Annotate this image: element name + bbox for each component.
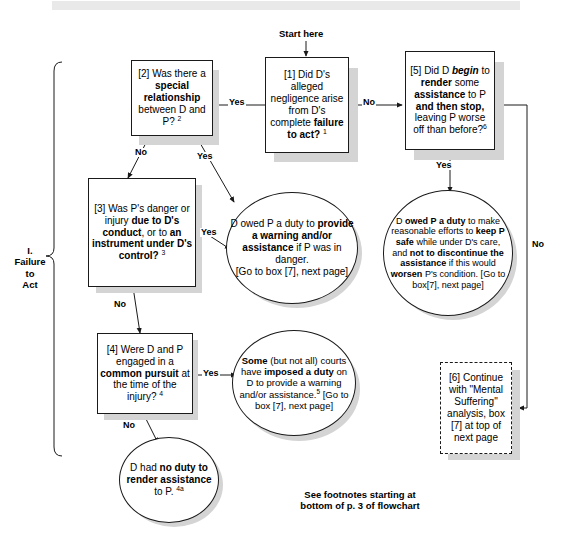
edge-label-box5-no: No	[531, 240, 545, 249]
node-box3-text: [3] Was P's danger or injury due to D's …	[89, 202, 195, 263]
node-box1[interactable]: [1] Did D's alleged negligence arise fro…	[265, 57, 349, 153]
node-box4[interactable]: [4] Were D and P engaged in a common pur…	[97, 333, 193, 414]
edge-label-box3-no: No	[113, 300, 127, 309]
wire-box3-no-box4	[133, 287, 140, 333]
start-here-label: Start here	[279, 28, 323, 39]
edge-label-box4-no: No	[122, 421, 136, 430]
node-oval-no-duty[interactable]: D had no duty to render assistance to P.…	[119, 437, 219, 523]
edge-label-box1-no: No	[362, 98, 376, 107]
node-box2[interactable]: [2] Was there a special relationship bet…	[131, 60, 213, 136]
node-oval-some-courts[interactable]: Some (but not all) courts have imposed a…	[232, 330, 356, 436]
edge-label-box4-yes: Yes	[202, 369, 220, 378]
node-oval-warning[interactable]: D owed P a duty to provide a warning and…	[226, 192, 358, 304]
node-box5[interactable]: [5] Did D begin to render some assistanc…	[405, 51, 495, 150]
node-oval-no-duty-text: D had no duty to render assistance to P.…	[120, 461, 218, 499]
flowchart-page: [2] Was there a special relationship bet…	[0, 0, 561, 548]
node-box5-text: [5] Did D begin to render some assistanc…	[406, 64, 494, 137]
node-box4-text: [4] Were D and P engaged in a common pur…	[98, 343, 192, 404]
node-box6[interactable]: [6] Continue with "Mental Suffering" ana…	[440, 362, 512, 454]
node-oval-some-courts-text: Some (but not all) courts have imposed a…	[233, 355, 355, 411]
node-oval-keepsafe-text: D owed P a duty to make reasonable effor…	[384, 216, 512, 291]
node-box3[interactable]: [3] Was P's danger or injury due to D's …	[88, 178, 196, 287]
edge-label-box2-no: No	[134, 148, 148, 157]
section-label: I. Failure to Act	[10, 245, 50, 291]
node-oval-keepsafe[interactable]: D owed P a duty to make reasonable effor…	[383, 190, 513, 316]
node-box2-text: [2] Was there a special relationship bet…	[132, 67, 212, 128]
edge-label-box1-yes: Yes	[228, 98, 246, 107]
edge-label-box3-yes: Yes	[200, 228, 218, 237]
node-oval-warning-text: D owed P a duty to provide a warning and…	[227, 217, 357, 278]
node-box6-text: [6] Continue with "Mental Suffering" ana…	[441, 371, 511, 444]
node-box1-text: [1] Did D's alleged negligence arise fro…	[266, 68, 348, 141]
edge-label-box2-yes: Yes	[196, 152, 214, 161]
footnote-label: See footnotes starting at bottom of p. 3…	[255, 489, 465, 512]
edge-label-box5-yes: Yes	[435, 161, 453, 170]
